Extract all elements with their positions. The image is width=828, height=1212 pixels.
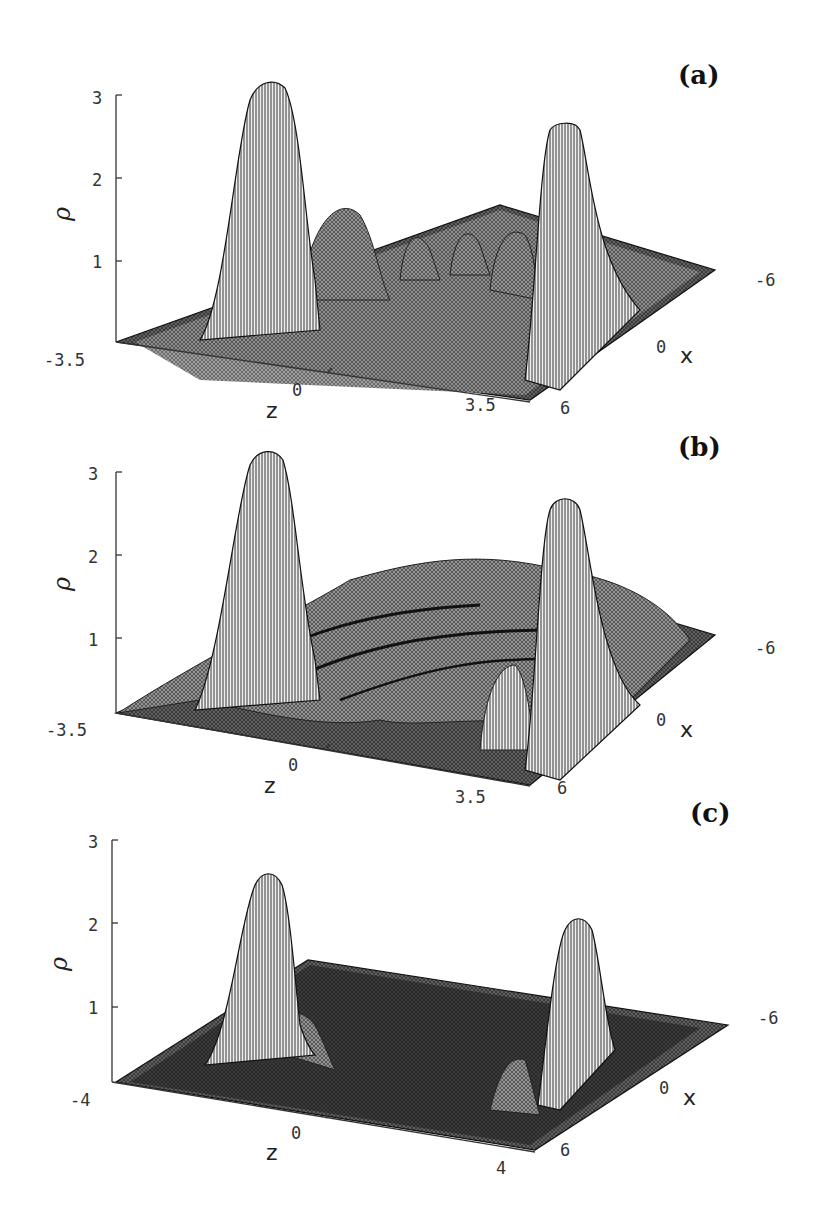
z-tick-max: 3.5 — [465, 395, 496, 415]
x-axis-label: x — [680, 717, 693, 742]
rho-tick-3: 3 — [88, 832, 98, 852]
panel-c: (c) ρ 3 2 1 -4 0 4 z -6 0 x 6 — [0, 810, 828, 1210]
z-tick-min: -3.5 — [46, 720, 87, 740]
x-tick-min: -6 — [755, 638, 775, 658]
panel-tag-a: (a) — [678, 60, 719, 90]
x-tick-max: 6 — [560, 398, 570, 418]
rho-axis-label: ρ — [48, 207, 76, 221]
x-tick-max: 6 — [560, 1140, 570, 1160]
panel-b: (b) ρ 3 2 1 -3.5 0 3.5 z -6 0 x 6 — [0, 430, 828, 820]
z-tick-zero: 0 — [288, 755, 298, 775]
x-axis-label: x — [680, 343, 693, 368]
z-axis-label: z — [264, 773, 276, 798]
rho-tick-3: 3 — [88, 464, 98, 484]
x-tick-zero: 0 — [656, 710, 666, 730]
z-axis-label: z — [266, 398, 278, 423]
rho-tick-3: 3 — [92, 88, 102, 108]
z-tick-min: -4 — [70, 1090, 90, 1110]
rho-tick-1: 1 — [88, 630, 98, 650]
rho-tick-1: 1 — [88, 998, 98, 1018]
rho-tick-1: 1 — [92, 252, 102, 272]
z-tick-min: -3.5 — [44, 350, 85, 370]
rho-tick-2: 2 — [88, 915, 98, 935]
rho-tick-2: 2 — [92, 170, 102, 190]
x-tick-min: -6 — [758, 1008, 778, 1028]
panel-tag-c: (c) — [690, 798, 730, 828]
z-tick-max: 4 — [496, 1158, 506, 1178]
surface-plot-c — [0, 810, 828, 1210]
x-tick-min: -6 — [755, 270, 775, 290]
panel-a: (a) ρ 3 2 1 -3.5 0 3.5 z -6 0 x 6 — [0, 0, 828, 410]
rho-axis-label: ρ — [45, 957, 73, 971]
x-tick-zero: 0 — [659, 1078, 669, 1098]
x-axis-label: x — [683, 1085, 696, 1110]
surface-plot-b — [0, 430, 828, 820]
rho-axis-label: ρ — [48, 577, 76, 591]
panel-tag-b: (b) — [678, 432, 721, 462]
rho-tick-2: 2 — [88, 547, 98, 567]
z-tick-max: 3.5 — [455, 787, 486, 807]
z-tick-zero: 0 — [292, 380, 302, 400]
x-tick-zero: 0 — [656, 337, 666, 357]
z-axis-label: z — [266, 1140, 278, 1165]
z-tick-zero: 0 — [291, 1123, 301, 1143]
x-tick-max: 6 — [557, 778, 567, 798]
